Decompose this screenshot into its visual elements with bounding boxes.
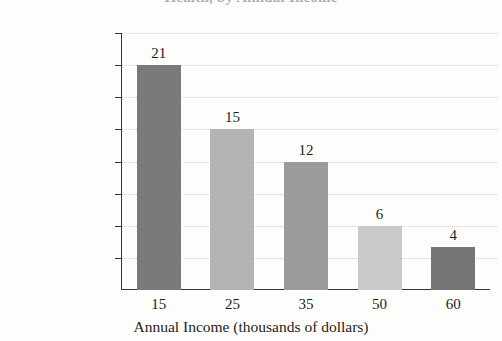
x-axis-tick-label: 15 [151,297,166,312]
chart-title: Health, by Annual Income [0,0,502,6]
bar-value-label: 21 [151,46,166,61]
bar: 1525 [210,129,254,290]
plot-area: 3%6%9%12%15%18%21%24% 211515251235650460 [122,33,490,290]
chart-figure: Health, by Annual Income Percentage Repo… [0,0,502,341]
y-axis-tick [115,258,122,259]
bar-value-label: 6 [376,207,384,222]
y-axis-tick [115,194,122,195]
y-axis-tick [115,226,122,227]
bar: 2115 [137,65,181,290]
x-axis-tick-label: 25 [225,297,240,312]
bar: 460 [431,247,475,290]
y-axis-tick [115,97,122,98]
x-axis-title: Annual Income (thousands of dollars) [0,318,502,336]
bar-value-label: 15 [225,110,240,125]
bar: 1235 [284,162,328,291]
x-axis-tick-label: 60 [446,297,461,312]
y-axis-tick [115,33,122,34]
y-axis-tick [115,65,122,66]
x-axis-tick-label: 50 [372,297,387,312]
x-axis-tick-label: 35 [299,297,314,312]
y-axis-tick [115,162,122,163]
bar-value-label: 12 [299,143,314,158]
bar-value-label: 4 [449,228,457,243]
y-axis-tick [115,129,122,130]
bar: 650 [358,226,402,290]
gridline [122,33,497,34]
